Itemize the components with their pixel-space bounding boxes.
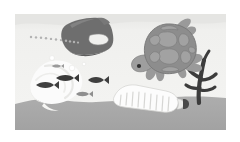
illustration-stage: Ocean Plastic Pollution Underwater scene… (0, 0, 240, 142)
bubble-trail-dot (65, 40, 67, 42)
bubble (50, 56, 55, 61)
shell-plate-center-1 (158, 32, 177, 47)
bubble-trail-dot (50, 38, 52, 40)
bubble-trail-dot (77, 42, 79, 44)
plastic-jug (61, 18, 113, 56)
shell-plate-center-2 (159, 49, 179, 64)
shell-plate-rear (189, 47, 196, 53)
shell-plate-right-1 (179, 34, 189, 46)
bubble-trail-dot (45, 37, 47, 39)
bubble-trail-dot (60, 39, 62, 41)
turtle-eye (137, 64, 141, 68)
bubble-trail-dot (55, 38, 57, 40)
bubble-trail-dot (40, 37, 42, 39)
ocean-pollution-illustration (0, 0, 240, 142)
plastic-jug-handle (89, 34, 109, 45)
bubble-trail-dot (35, 36, 37, 38)
bubble-trail-dot (73, 41, 75, 43)
shell-plate-right-2 (181, 51, 191, 63)
bubble-trail-dot (30, 36, 32, 38)
bubble (82, 62, 86, 66)
bubble-trail-dot (69, 40, 71, 42)
bubble (69, 65, 75, 71)
